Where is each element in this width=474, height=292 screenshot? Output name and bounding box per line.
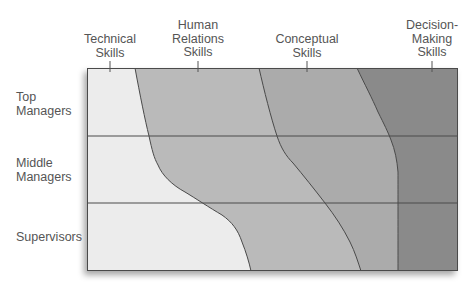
column-label-human-relations-skills: Human Relations Skills [172, 19, 224, 60]
column-label-decision-making-skills: Decision- Making Skills [406, 19, 458, 60]
row-label-middle-managers: Middle Managers [16, 156, 72, 184]
row-label-supervisors: Supervisors [16, 230, 82, 244]
column-label-conceptual-skills: Conceptual Skills [275, 33, 338, 60]
skills-diagram [0, 0, 474, 292]
column-label-technical-skills: Technical Skills [84, 33, 136, 60]
row-label-top-managers: Top Managers [16, 90, 72, 118]
